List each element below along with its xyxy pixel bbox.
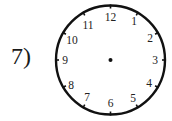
clock-number-12: 12 (105, 11, 117, 23)
clock-number-6: 6 (108, 97, 114, 109)
clock-number-8: 8 (68, 79, 74, 91)
clock-number-1: 1 (131, 15, 137, 27)
clock-number-7: 7 (84, 91, 90, 103)
clock-number-2: 2 (147, 32, 153, 44)
clock-number-3: 3 (152, 54, 158, 66)
clock-face: 12 1 2 3 4 5 6 7 8 9 10 11 (0, 0, 172, 121)
clock-number-5: 5 (130, 92, 136, 104)
clock-number-10: 10 (66, 34, 78, 46)
clock-number-11: 11 (82, 19, 93, 31)
clock-number-9: 9 (62, 54, 68, 66)
center-dot (109, 58, 113, 62)
clock-number-4: 4 (146, 77, 152, 89)
